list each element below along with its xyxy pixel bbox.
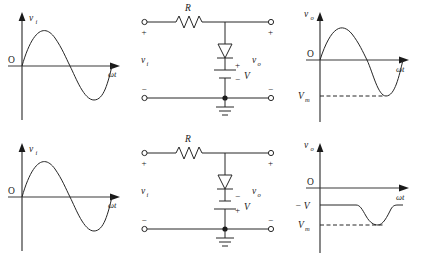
output-voltage-label: v: [252, 55, 257, 65]
output-terminal-top: [268, 19, 273, 24]
input-waveform-bottom: v i O ωt: [0, 131, 140, 261]
battery-label: V: [244, 202, 251, 212]
input-waveform-top: v i O ωt: [0, 0, 140, 130]
resistor-label: R: [184, 134, 191, 144]
y-axis-arrow: [19, 143, 26, 152]
y-axis-label-sub: i: [36, 18, 38, 25]
x-axis-arrow: [399, 184, 409, 191]
origin-label: O: [8, 186, 15, 196]
output-waveform-bottom-svg: v o O ωt − V V m: [290, 131, 432, 261]
y-axis-label-sub: o: [311, 14, 315, 21]
y-axis-arrow: [19, 12, 26, 21]
x-axis-arrow: [399, 56, 409, 63]
y-axis-label-sub: o: [311, 145, 315, 152]
output-plus-sign: +: [268, 27, 273, 37]
input-terminal-bottom: [142, 95, 147, 100]
clamped-curve: [320, 205, 403, 225]
battery-minus-sign: −: [235, 74, 240, 84]
sine-curve: [320, 28, 403, 96]
resistor-symbol: [176, 16, 202, 28]
y-axis-label-sub: i: [36, 149, 38, 156]
origin-label: O: [8, 55, 15, 65]
input-plus-sign: +: [142, 27, 147, 37]
input-waveform-top-svg: v i O ωt: [0, 0, 140, 130]
vm-level-label-sub: m: [305, 96, 310, 103]
diode-triangle-icon: [218, 175, 232, 189]
origin-label: O: [307, 177, 314, 187]
figure-row-top: v i O ωt: [0, 0, 432, 130]
output-terminal-bottom: [268, 226, 273, 231]
input-voltage-label-sub: i: [147, 60, 149, 67]
input-voltage-label: v: [141, 186, 146, 196]
circuit-bottom: + − + − R v i v o − + V: [140, 131, 290, 261]
y-axis-label: v: [304, 9, 309, 19]
output-voltage-label-sub: o: [258, 191, 262, 198]
y-axis-label: v: [29, 13, 34, 23]
output-terminal-bottom: [268, 95, 273, 100]
output-waveform-top: v o O ωt V m: [290, 0, 432, 130]
battery-plus-sign: +: [235, 205, 240, 215]
x-axis-label: ωt: [108, 200, 117, 210]
x-axis-label: ωt: [396, 192, 405, 202]
input-terminal-top: [142, 150, 147, 155]
output-plus-sign: +: [268, 158, 273, 168]
y-axis-arrow: [317, 143, 324, 152]
input-terminal-bottom: [142, 226, 147, 231]
circuit-top: + − + − R v i v o + − V: [140, 0, 290, 130]
clamp-level-label: − V: [295, 201, 311, 211]
input-terminal-top: [142, 19, 147, 24]
origin-label: O: [307, 49, 314, 59]
battery-minus-sign: −: [235, 191, 240, 201]
x-axis-label: ωt: [396, 64, 405, 74]
output-waveform-bottom: v o O ωt − V V m: [290, 131, 432, 261]
input-voltage-label-sub: i: [147, 191, 149, 198]
output-minus-sign: −: [268, 84, 273, 94]
figure-row-bottom: v i O ωt: [0, 131, 432, 261]
output-voltage-label-sub: o: [258, 60, 262, 67]
output-minus-sign: −: [268, 215, 273, 225]
vm-level-label-sub: m: [305, 225, 310, 232]
y-axis-label: v: [29, 144, 34, 154]
output-voltage-label: v: [252, 186, 257, 196]
input-minus-sign: −: [142, 215, 147, 225]
vm-level-label: V: [298, 220, 305, 230]
output-waveform-top-svg: v o O ωt V m: [290, 0, 432, 130]
vm-level-label: V: [298, 91, 305, 101]
x-axis-label: ωt: [108, 69, 117, 79]
output-terminal-top: [268, 150, 273, 155]
battery-plus-sign: +: [235, 60, 240, 70]
sine-curve: [22, 162, 112, 231]
input-waveform-bottom-svg: v i O ωt: [0, 131, 140, 261]
resistor-label: R: [184, 3, 191, 13]
y-axis-label: v: [304, 140, 309, 150]
input-plus-sign: +: [142, 158, 147, 168]
resistor-symbol: [176, 147, 202, 159]
sine-curve: [22, 31, 112, 100]
figure-root: v i O ωt: [0, 0, 432, 261]
circuit-bottom-svg: + − + − R v i v o − + V: [140, 131, 290, 261]
y-axis-arrow: [317, 12, 324, 21]
input-minus-sign: −: [142, 84, 147, 94]
diode-triangle-icon: [218, 44, 232, 58]
circuit-top-svg: + − + − R v i v o + − V: [140, 0, 290, 130]
battery-label: V: [244, 71, 251, 81]
input-voltage-label: v: [141, 55, 146, 65]
